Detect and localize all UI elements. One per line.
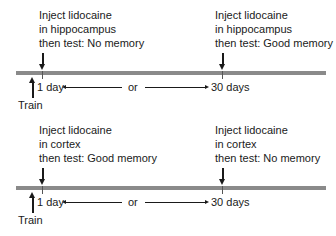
tick-1-day (42, 186, 43, 194)
right-event-label: Inject lidocaine in cortex then test: No… (215, 123, 320, 165)
left-arrow-icon (65, 87, 122, 88)
right-event-line1: Inject lidocaine (215, 123, 320, 137)
right-event-line2: in cortex (215, 137, 320, 151)
left-time-label: 1 day (37, 195, 64, 209)
down-arrow-icon (42, 53, 44, 65)
train-label: Train (18, 213, 43, 227)
right-event-label: Inject lidocaine in hippocampus then tes… (215, 8, 333, 50)
left-arrow-icon (65, 202, 122, 203)
left-event-line2: in hippocampus (39, 22, 144, 36)
up-arrow-icon (32, 197, 34, 213)
left-event-line3: then test: No memory (39, 36, 144, 50)
right-time-label: 30 days (211, 195, 250, 209)
right-arrow-icon (145, 202, 206, 203)
or-label: or (128, 80, 138, 94)
right-event-line3: then test: No memory (215, 151, 320, 165)
down-arrow-icon (42, 168, 44, 180)
right-event-line2: in hippocampus (215, 22, 333, 36)
up-arrow-icon (32, 82, 34, 98)
or-label: or (128, 195, 138, 209)
tick-30-days (222, 71, 223, 79)
down-arrow-icon (222, 53, 224, 65)
timeline-bar (16, 186, 326, 190)
left-time-label: 1 day (37, 80, 64, 94)
timeline-bar (16, 71, 326, 75)
right-event-line1: Inject lidocaine (215, 8, 333, 22)
left-event-line2: in cortex (39, 137, 157, 151)
timeline-panel-cortex: Inject lidocaine in cortex then test: Go… (0, 115, 336, 233)
left-event-label: Inject lidocaine in cortex then test: Go… (39, 123, 157, 165)
right-arrow-icon (145, 87, 206, 88)
down-arrow-icon (222, 168, 224, 180)
right-event-line3: then test: Good memory (215, 36, 333, 50)
left-event-line1: Inject lidocaine (39, 123, 157, 137)
tick-30-days (222, 186, 223, 194)
left-event-label: Inject lidocaine in hippocampus then tes… (39, 8, 144, 50)
left-event-line3: then test: Good memory (39, 151, 157, 165)
train-label: Train (18, 98, 43, 112)
tick-1-day (42, 71, 43, 79)
timeline-panel-hippocampus: Inject lidocaine in hippocampus then tes… (0, 0, 336, 118)
right-time-label: 30 days (211, 80, 250, 94)
left-event-line1: Inject lidocaine (39, 8, 144, 22)
